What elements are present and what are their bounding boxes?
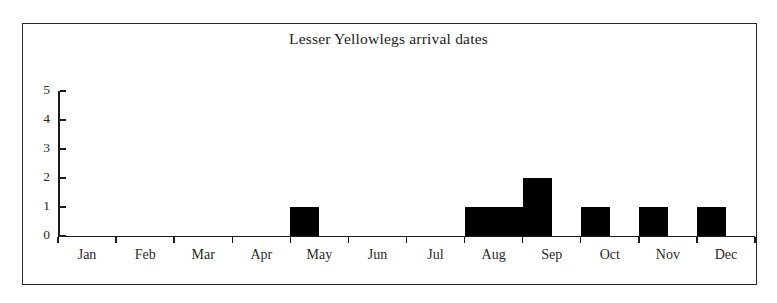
x-tick-mark — [290, 237, 291, 243]
x-label-apr: Apr — [231, 247, 291, 263]
x-label-sep: Sep — [522, 247, 582, 263]
x-label-aug: Aug — [464, 247, 524, 263]
x-tick-mark — [464, 237, 465, 243]
bar — [697, 207, 726, 236]
y-tick-label: 3 — [28, 140, 50, 156]
chart-figure: Lesser Yellowlegs arrival dates 012345 J… — [0, 0, 777, 303]
x-label-feb: Feb — [115, 247, 175, 263]
y-tick-label: 5 — [28, 82, 50, 98]
y-tick-mark — [60, 235, 66, 236]
bar — [581, 207, 610, 236]
x-label-mar: Mar — [173, 247, 233, 263]
y-tick-mark — [60, 119, 66, 120]
x-tick-mark — [406, 237, 407, 243]
x-label-may: May — [289, 247, 349, 263]
y-tick-mark — [60, 177, 66, 178]
x-tick-mark — [173, 237, 174, 243]
y-tick-mark — [60, 148, 66, 149]
x-label-jan: Jan — [57, 247, 117, 263]
y-axis-line — [58, 91, 60, 237]
x-label-jul: Jul — [406, 247, 466, 263]
x-tick-mark — [754, 237, 755, 243]
bar — [639, 207, 668, 236]
y-tick-mark — [60, 90, 66, 91]
x-tick-mark — [696, 237, 697, 243]
y-tick-label: 0 — [28, 227, 50, 243]
x-tick-mark — [580, 237, 581, 243]
x-label-dec: Dec — [696, 247, 756, 263]
x-tick-mark — [638, 237, 639, 243]
x-label-jun: Jun — [347, 247, 407, 263]
x-tick-mark — [115, 237, 116, 243]
y-tick-label: 2 — [28, 169, 50, 185]
x-tick-mark — [232, 237, 233, 243]
x-label-nov: Nov — [638, 247, 698, 263]
x-tick-mark — [57, 237, 58, 243]
bar — [290, 207, 319, 236]
y-tick-label: 1 — [28, 198, 50, 214]
x-tick-mark — [522, 237, 523, 243]
bar — [465, 207, 523, 236]
y-tick-label: 4 — [28, 111, 50, 127]
y-tick-mark — [60, 206, 66, 207]
plot-area: 012345 JanFebMarAprMayJunJulAugSepOctNov… — [0, 0, 777, 303]
bar — [523, 178, 552, 236]
x-label-oct: Oct — [580, 247, 640, 263]
x-tick-mark — [348, 237, 349, 243]
